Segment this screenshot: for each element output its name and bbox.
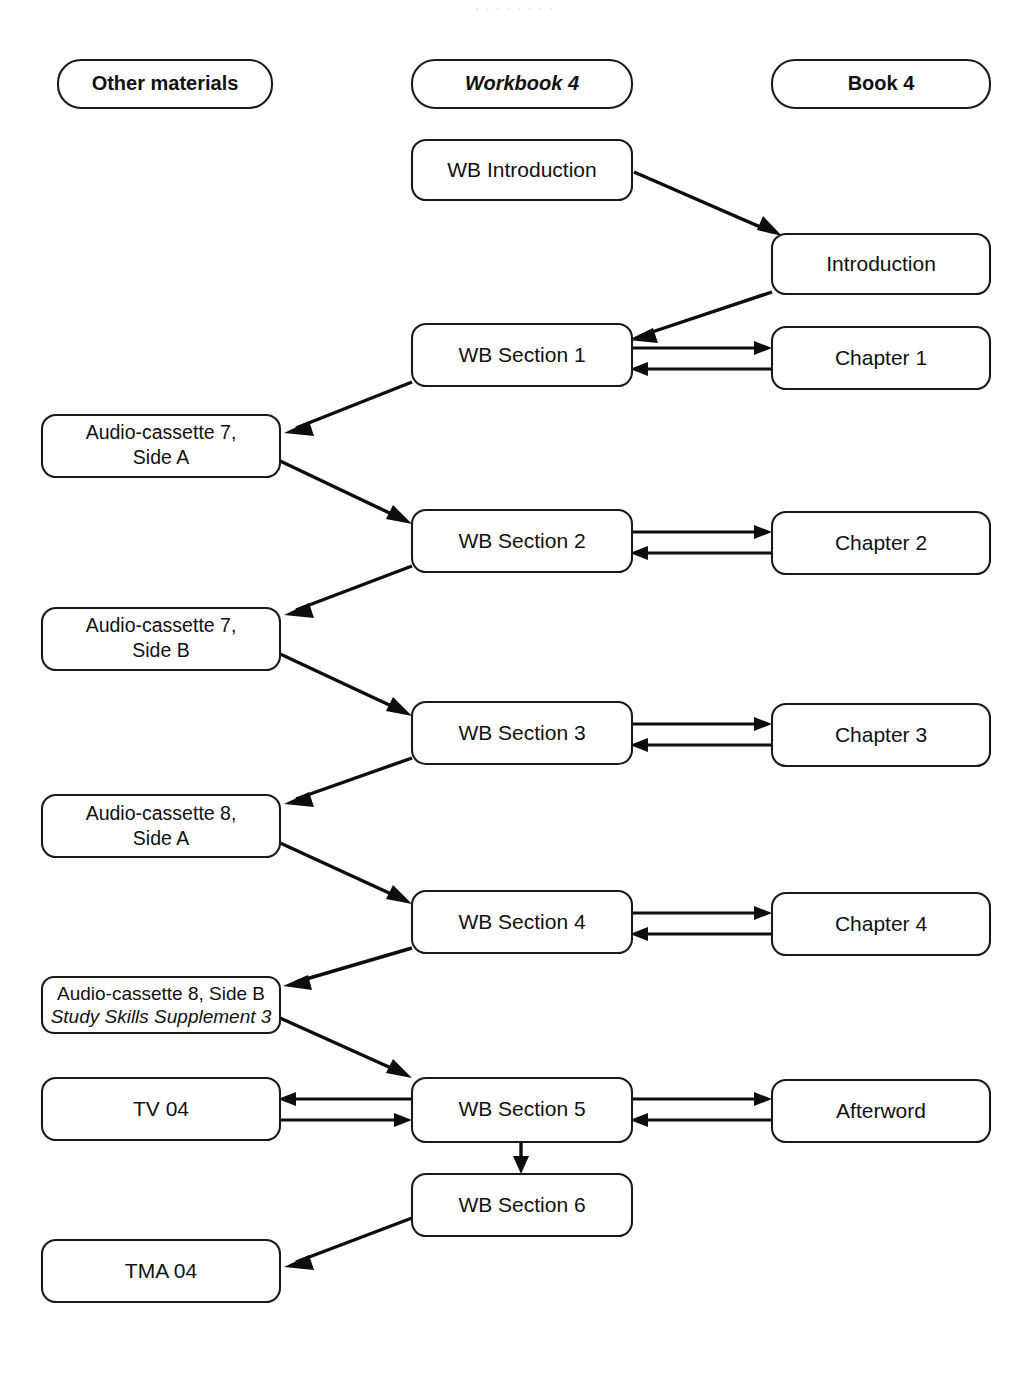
node-label-cassette-7a-line2: Side A <box>133 446 189 468</box>
node-label-wb-section-5: WB Section 5 <box>458 1097 585 1120</box>
node-wb-section-4[interactable]: WB Section 4 <box>412 891 632 953</box>
node-label-introduction: Introduction <box>826 252 936 275</box>
canvas-background <box>0 0 1028 1378</box>
node-wb-section-5[interactable]: WB Section 5 <box>412 1078 632 1142</box>
flow-diagram: . . . . . . . . Other materials Workbook… <box>0 0 1028 1378</box>
node-chapter-3[interactable]: Chapter 3 <box>772 704 990 766</box>
clipped-top-text: . . . . . . . . <box>474 0 553 14</box>
node-label-chapter-2: Chapter 2 <box>835 531 927 554</box>
node-afterword[interactable]: Afterword <box>772 1080 990 1142</box>
header-label-book: Book 4 <box>848 72 916 94</box>
node-wb-introduction[interactable]: WB Introduction <box>412 140 632 200</box>
node-label-cassette-8a-line2: Side A <box>133 827 189 849</box>
node-chapter-2[interactable]: Chapter 2 <box>772 512 990 574</box>
node-label-wb-section-1: WB Section 1 <box>458 343 585 366</box>
node-cassette-8b[interactable]: Audio-cassette 8, Side B Study Skills Su… <box>42 977 280 1033</box>
node-chapter-1[interactable]: Chapter 1 <box>772 327 990 389</box>
node-chapter-4[interactable]: Chapter 4 <box>772 893 990 955</box>
node-cassette-7a[interactable]: Audio-cassette 7, Side A <box>42 415 280 477</box>
node-label-chapter-3: Chapter 3 <box>835 723 927 746</box>
node-label-cassette-7b-line2: Side B <box>132 639 189 661</box>
node-wb-section-3[interactable]: WB Section 3 <box>412 702 632 764</box>
node-label-chapter-4: Chapter 4 <box>835 912 928 935</box>
node-label-tv-04: TV 04 <box>133 1097 189 1120</box>
node-cassette-7b[interactable]: Audio-cassette 7, Side B <box>42 608 280 670</box>
node-label-cassette-7a-line1: Audio-cassette 7, <box>86 421 237 443</box>
node-cassette-8a[interactable]: Audio-cassette 8, Side A <box>42 795 280 857</box>
node-wb-section-6[interactable]: WB Section 6 <box>412 1174 632 1236</box>
node-label-wb-section-2: WB Section 2 <box>458 529 585 552</box>
node-label-afterword: Afterword <box>836 1099 926 1122</box>
node-label-wb-section-6: WB Section 6 <box>458 1193 585 1216</box>
node-wb-section-2[interactable]: WB Section 2 <box>412 510 632 572</box>
node-label-chapter-1: Chapter 1 <box>835 346 927 369</box>
column-header-workbook: Workbook 4 <box>412 60 632 108</box>
header-label-other-materials: Other materials <box>92 72 239 94</box>
node-tv-04[interactable]: TV 04 <box>42 1078 280 1140</box>
node-label-cassette-8b-line2: Study Skills Supplement 3 <box>51 1006 272 1027</box>
node-label-cassette-8a-line1: Audio-cassette 8, <box>86 802 237 824</box>
node-label-wb-introduction: WB Introduction <box>447 158 596 181</box>
node-label-wb-section-4: WB Section 4 <box>458 910 586 933</box>
node-label-tma-04: TMA 04 <box>125 1259 198 1282</box>
column-header-book: Book 4 <box>772 60 990 108</box>
node-tma-04[interactable]: TMA 04 <box>42 1240 280 1302</box>
column-header-other-materials: Other materials <box>58 60 272 108</box>
node-wb-section-1[interactable]: WB Section 1 <box>412 324 632 386</box>
node-label-wb-section-3: WB Section 3 <box>458 721 585 744</box>
node-label-cassette-7b-line1: Audio-cassette 7, <box>86 614 237 636</box>
node-introduction[interactable]: Introduction <box>772 234 990 294</box>
header-label-workbook: Workbook 4 <box>465 72 579 94</box>
node-label-cassette-8b-line1: Audio-cassette 8, Side B <box>57 983 265 1004</box>
